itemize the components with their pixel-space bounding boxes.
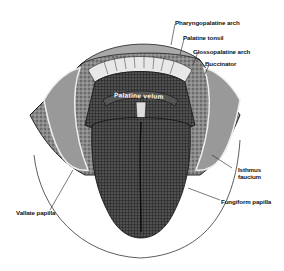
- anatomy-illustration: [0, 0, 284, 271]
- label-pharyngopalatine-arch: Pharyngopalatine arch: [175, 19, 240, 26]
- label-isthmus-faucium-line2: faucium: [238, 173, 261, 180]
- label-fungiform-papilla: Fungiform papilla: [221, 198, 271, 205]
- label-vallate-papilla: Vallate papilla: [16, 209, 55, 216]
- label-isthmus-faucium-line1: Isthmus: [238, 166, 261, 173]
- oral-cavity-diagram: Palatine velum Pharyngopalatine arch Pal…: [0, 0, 284, 271]
- label-glossopalatine-arch: Glossopalatine arch: [193, 48, 250, 55]
- label-buccinator: Buccinator: [205, 60, 236, 67]
- label-palatine-tonsil: Palatine tonsil: [183, 34, 223, 41]
